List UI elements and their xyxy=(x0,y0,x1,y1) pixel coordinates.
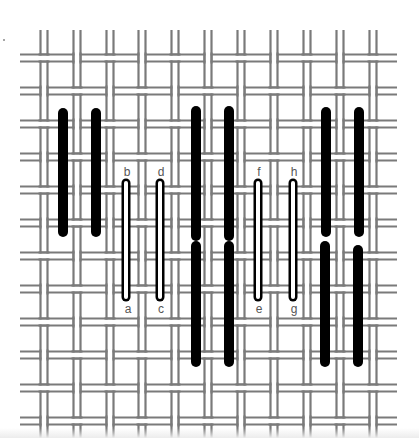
outlined-stitches xyxy=(126,183,293,297)
stitch-label-c: c xyxy=(158,303,164,315)
stitch-label-g: g xyxy=(291,303,298,315)
margin-dot xyxy=(3,39,5,41)
stitch-label-b: b xyxy=(124,166,131,178)
canvas-threads xyxy=(20,30,397,438)
stitch-label-h: h xyxy=(291,166,298,178)
stitch-label-a: a xyxy=(125,303,132,315)
stitch-label-d: d xyxy=(158,166,165,178)
stitch-label-f: f xyxy=(257,166,260,178)
canvas-diagram xyxy=(0,0,419,438)
stitch-label-e: e xyxy=(256,303,263,315)
bottom-fade xyxy=(0,428,419,438)
